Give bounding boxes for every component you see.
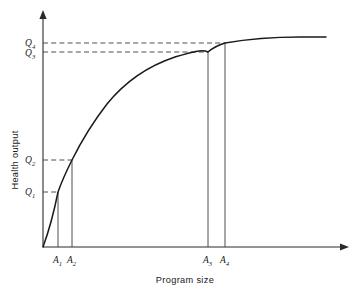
x-axis-arrowhead — [340, 243, 349, 250]
chart-figure: Q4 Q3 Q2 Q1 A1 A2 A3 A4 — [0, 0, 357, 296]
x-tick-label-a1: A1 — [52, 255, 62, 267]
health-output-curve — [43, 37, 326, 247]
y-tick-label-q2: Q2 — [25, 155, 36, 167]
y-axis-arrowhead — [39, 10, 46, 19]
x-tick-label-a4: A4 — [219, 255, 230, 267]
health-production-function-chart: Q4 Q3 Q2 Q1 A1 A2 A3 A4 — [0, 0, 357, 296]
x-tick-label-a3: A3 — [202, 255, 213, 267]
horizontal-guide-lines-group — [43, 43, 225, 192]
y-tick-label-q3: Q3 — [25, 48, 36, 60]
y-axis-title: Health output — [10, 130, 20, 189]
x-tick-label-a2: A2 — [66, 255, 77, 267]
x-tick-labels-group: A1 A2 A3 A4 — [52, 255, 230, 267]
y-tick-label-q1: Q1 — [25, 187, 35, 199]
x-axis-title: Program size — [156, 275, 214, 285]
axes-group — [39, 10, 349, 251]
y-tick-labels-group: Q4 Q3 Q2 Q1 — [25, 38, 36, 199]
